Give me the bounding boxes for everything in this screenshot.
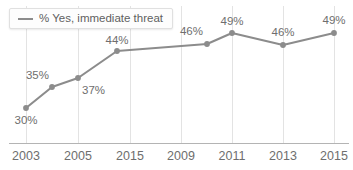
data-point-marker[interactable] xyxy=(23,105,29,111)
data-point-marker[interactable] xyxy=(229,30,235,36)
x-tick-label-3: 2009 xyxy=(167,149,195,163)
data-point-label: 46% xyxy=(271,26,294,38)
data-point-label: 49% xyxy=(322,14,345,26)
data-point-labels: 30%35%37%44%46%49%46%49% xyxy=(14,14,345,126)
data-point-marker[interactable] xyxy=(49,84,55,90)
data-point-marker[interactable] xyxy=(204,41,210,47)
legend-label: % Yes, immediate threat xyxy=(39,13,163,25)
series-line-yes-immediate-threat xyxy=(26,33,334,108)
data-point-label: 44% xyxy=(105,34,128,46)
x-tick-label-2: 2015 xyxy=(116,149,144,163)
data-point-label: 35% xyxy=(26,69,49,81)
data-point-marker[interactable] xyxy=(114,48,120,54)
x-tick-label-4: 2011 xyxy=(219,149,246,163)
chart-legend[interactable]: % Yes, immediate threat xyxy=(9,8,173,29)
data-point-label: 37% xyxy=(82,84,105,96)
x-axis-tick-labels: 2003200520152009201120132015 xyxy=(12,149,348,163)
line-chart: 30%35%37%44%46%49%46%49% 200320052015200… xyxy=(0,0,353,170)
data-point-marker[interactable] xyxy=(280,42,286,48)
x-tick-label-0: 2003 xyxy=(12,149,40,163)
data-point-marker[interactable] xyxy=(75,75,81,81)
data-point-marker[interactable] xyxy=(331,30,337,36)
data-point-label: 46% xyxy=(180,25,203,37)
x-tick-label-1: 2005 xyxy=(64,149,92,163)
x-tick-label-5: 2013 xyxy=(269,149,297,163)
data-point-label: 30% xyxy=(14,114,37,126)
line-swatch-icon xyxy=(18,18,33,20)
x-tick-label-6: 2015 xyxy=(320,149,348,163)
series-markers xyxy=(23,30,337,111)
data-point-label: 49% xyxy=(220,15,243,27)
